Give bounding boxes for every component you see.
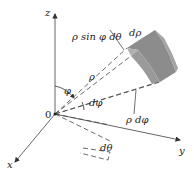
x-axis-label: x (7, 160, 13, 170)
x-axis (15, 114, 55, 162)
phi-label: φ (64, 86, 71, 96)
z-axis-label: z (45, 8, 50, 18)
spherical-volume-element-diagram (0, 0, 194, 174)
rho-d-phi-leader (134, 90, 136, 114)
d-rho-label: dρ (129, 28, 141, 38)
origin-label: 0 (45, 110, 51, 120)
volume-element-block (127, 30, 178, 84)
rho-label: ρ (89, 72, 95, 82)
d-theta-label: dθ (100, 143, 112, 153)
d-phi-label: dφ (89, 98, 102, 108)
rho-sin-phi-dtheta-label: ρ sin φ dθ (72, 32, 122, 42)
rho-d-phi-label: ρ dφ (126, 115, 148, 125)
y-axis-label: y (179, 146, 185, 156)
